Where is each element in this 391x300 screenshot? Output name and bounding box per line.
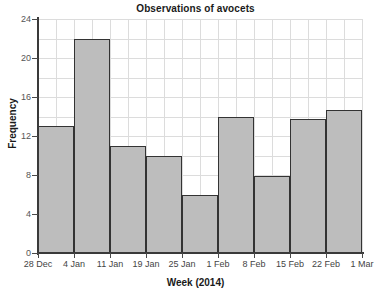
x-axis-tick-label: 25 Jan: [168, 259, 195, 269]
y-axis-tick-label: 20: [5, 54, 31, 63]
y-axis-tick-label: 4: [5, 210, 31, 219]
histogram-chart: Observations of avocets: [0, 0, 391, 300]
histogram-bar: [326, 110, 362, 253]
histogram-bar: [74, 39, 110, 254]
x-axis-tick-label: 1 Feb: [206, 259, 229, 269]
x-axis-tick: [74, 253, 75, 258]
x-axis-tick-label: 11 Jan: [97, 259, 123, 269]
y-axis-tick: [32, 97, 38, 98]
gridline-vertical: [362, 19, 363, 253]
x-axis-tick: [254, 253, 255, 258]
x-axis-tick-label: 15 Feb: [276, 259, 304, 269]
histogram-bar: [290, 119, 326, 253]
x-axis-tick-label: 22 Feb: [312, 259, 340, 269]
x-axis-tick: [110, 253, 111, 258]
y-axis-tick: [32, 214, 38, 215]
x-axis-tick-label: 19 Jan: [132, 259, 159, 269]
histogram-bar: [182, 195, 218, 253]
x-axis-tick: [38, 253, 39, 258]
x-axis-title: Week (2014): [0, 277, 391, 288]
y-axis-tick: [32, 19, 38, 20]
x-axis-tick: [290, 253, 291, 258]
histogram-bar: [254, 176, 290, 253]
y-axis-title: Frequency: [7, 84, 18, 164]
x-axis-tick-label: 8 Feb: [242, 259, 265, 269]
x-axis-tick: [146, 253, 147, 258]
x-axis-tick-label: 28 Dec: [24, 259, 53, 269]
x-axis-tick: [182, 253, 183, 258]
x-axis-tick: [362, 253, 363, 258]
histogram-bar: [218, 117, 254, 253]
histogram-bar: [38, 126, 74, 253]
y-axis-tick: [32, 175, 38, 176]
y-axis-tick-label: 0: [5, 249, 31, 258]
x-axis-tick-label: 4 Jan: [63, 259, 85, 269]
histogram-bar: [146, 156, 182, 254]
plot-area: [38, 19, 362, 253]
histogram-bar: [110, 146, 146, 253]
y-axis-tick-label: 8: [5, 171, 31, 180]
x-axis-tick: [218, 253, 219, 258]
y-axis-tick: [32, 136, 38, 137]
y-axis-tick-label: 24: [5, 15, 31, 24]
x-axis-line: [37, 252, 364, 254]
y-axis-tick: [32, 58, 38, 59]
x-axis-tick: [326, 253, 327, 258]
x-axis-tick-label: 1 Mar: [350, 259, 373, 269]
chart-title: Observations of avocets: [0, 3, 391, 14]
